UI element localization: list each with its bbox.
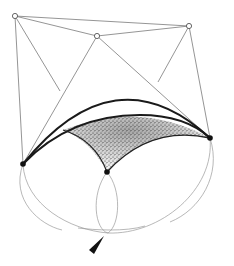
point-l [20, 161, 26, 167]
point-b [94, 33, 99, 38]
point-c [186, 23, 191, 28]
point-a [12, 13, 17, 18]
pointer-arrow-icon [89, 236, 104, 254]
geometric-diagram [0, 0, 234, 266]
point-m [104, 169, 110, 175]
point-r [207, 135, 213, 141]
